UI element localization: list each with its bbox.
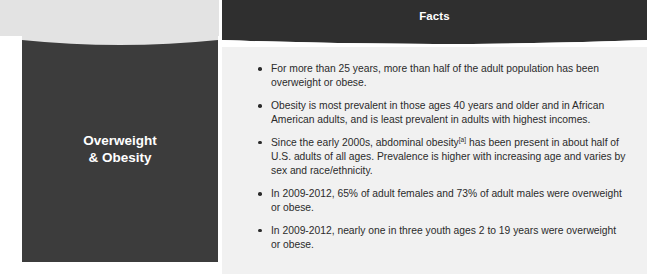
facts-header-curve-divider: [222, 37, 647, 47]
condition-title: Overweight & Obesity: [22, 132, 218, 166]
condition-title-line-2: & Obesity: [22, 149, 218, 166]
fact-text: For more than 25 years, more than half o…: [271, 63, 599, 88]
list-item: In 2009-2012, 65% of adult females and 7…: [258, 187, 626, 215]
list-item: For more than 25 years, more than half o…: [258, 62, 626, 90]
fact-text: Since the early 2000s, abdominal obesity: [271, 137, 459, 148]
column-header-facts-label: Facts: [222, 10, 647, 22]
fact-text: In 2009-2012, 65% of adult females and 7…: [271, 188, 622, 213]
condition-title-line-1: Overweight: [22, 132, 218, 149]
health-facts-table: Health Condition Facts Overweight & Obes…: [0, 0, 647, 274]
list-item: In 2009-2012, nearly one in three youth …: [258, 224, 626, 252]
condition-panel-curve-divider: [0, 36, 219, 54]
list-item: Obesity is most prevalent in those ages …: [258, 99, 626, 127]
fact-text: Obesity is most prevalent in those ages …: [271, 100, 604, 125]
fact-footnote-marker: [a]: [459, 135, 466, 142]
column-header-health-condition: [0, 0, 219, 40]
facts-list: For more than 25 years, more than half o…: [258, 62, 626, 261]
list-item: Since the early 2000s, abdominal obesity…: [258, 136, 626, 179]
fact-text: In 2009-2012, nearly one in three youth …: [271, 225, 616, 250]
